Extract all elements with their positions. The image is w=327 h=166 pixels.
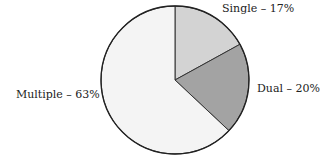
- label-multiple: Multiple – 63%: [16, 88, 100, 101]
- label-single: Single – 17%: [222, 2, 294, 15]
- label-dual: Dual – 20%: [257, 82, 320, 95]
